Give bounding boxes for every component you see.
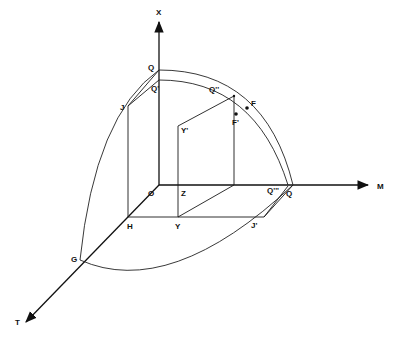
label-f: F bbox=[251, 99, 256, 108]
label-q-triple-prime: Q''' bbox=[267, 186, 279, 195]
label-x-axis: X bbox=[156, 8, 162, 17]
label-origin: O bbox=[148, 189, 154, 198]
label-z: Z bbox=[181, 189, 186, 198]
label-y-prime: Y' bbox=[181, 126, 188, 135]
outer-arc-q-to-q bbox=[159, 70, 293, 185]
label-f-prime: F' bbox=[232, 118, 239, 127]
arc-q-through-j-to-g bbox=[80, 70, 159, 260]
point-q2 bbox=[233, 95, 235, 97]
label-h: H bbox=[127, 222, 133, 231]
label-q-right: Q bbox=[286, 189, 292, 198]
label-q-double-prime: Q'' bbox=[209, 85, 219, 94]
label-y: Y bbox=[175, 222, 181, 231]
label-j-prime: J' bbox=[251, 221, 257, 230]
point-f bbox=[245, 106, 249, 110]
arc-g-through-jprime-to-q bbox=[80, 185, 293, 270]
geometric-diagram: X M T O Q Q' J H Q'' F F' Y' Y Z Q Q''' … bbox=[0, 0, 401, 337]
label-t-axis: T bbox=[15, 318, 20, 327]
line-y-z bbox=[178, 185, 234, 217]
t-axis bbox=[26, 185, 159, 322]
label-q-prime: Q' bbox=[151, 84, 159, 93]
label-m-axis: M bbox=[377, 182, 384, 191]
label-g: G bbox=[71, 255, 77, 264]
point-fprime bbox=[234, 112, 238, 116]
label-q-top: Q bbox=[148, 63, 154, 72]
label-j: J bbox=[120, 103, 124, 112]
line-yprime-q2 bbox=[178, 96, 234, 126]
